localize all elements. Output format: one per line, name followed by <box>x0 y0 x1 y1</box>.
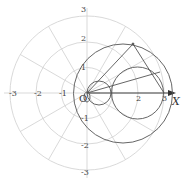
tick-label-x-2: 2 <box>136 94 141 103</box>
point-marker <box>132 43 134 45</box>
tick-label-y-1: 1 <box>81 63 86 72</box>
tick-label-x-neg1: -1 <box>59 89 67 98</box>
tick-label-x-neg2: -2 <box>34 89 42 98</box>
grid-ray-150 <box>20 55 87 94</box>
polar-diagram: -3 -2 -1 2 3 1 2 3 -1 -2 -3 O X <box>0 0 188 187</box>
tick-label-y-neg3: -3 <box>81 168 89 177</box>
tangent-segment <box>87 72 160 93</box>
tick-label-x-neg3: -3 <box>9 89 17 98</box>
tick-label-x-3: 3 <box>162 94 167 103</box>
tick-label-y-3: 3 <box>81 5 86 14</box>
tick-label-y-2: 2 <box>81 34 86 43</box>
origin-label: O <box>79 93 87 104</box>
tick-label-y-neg1: -1 <box>81 114 89 123</box>
axis-label-x: X <box>171 95 181 108</box>
tick-label-y-neg2: -2 <box>81 141 89 150</box>
